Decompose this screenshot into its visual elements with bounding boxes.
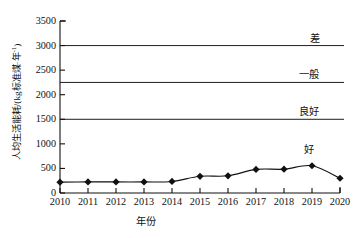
y-tick-marks — [60, 21, 65, 193]
x-tick-labels: 2010201120122013201420152016201720182019… — [0, 196, 364, 212]
y-tick-label: 2000 — [16, 90, 56, 100]
y-tick-label: 1000 — [16, 139, 56, 149]
x-tick-marks — [60, 188, 340, 193]
data-point-marker — [112, 178, 119, 185]
x-axis-label-text: 年份 — [136, 216, 156, 227]
y-tick-label: 3500 — [16, 16, 56, 26]
data-point-marker — [224, 172, 231, 179]
data-point-marker — [336, 175, 343, 182]
data-point-marker — [252, 166, 259, 173]
threshold-annotation-label: 差 — [310, 33, 320, 44]
data-point-marker — [168, 178, 175, 185]
data-point-marker — [280, 166, 287, 173]
threshold-annotation-label: 一般 — [299, 69, 319, 80]
threshold-annotation-label: 良好 — [299, 105, 319, 116]
y-tick-label: 3000 — [16, 41, 56, 51]
x-tick-label: 2020 — [320, 196, 360, 207]
data-point-marker — [196, 173, 203, 180]
data-point-marker — [308, 162, 315, 169]
data-point-marker — [56, 179, 63, 186]
chart-figure: 人均生活能耗/(kg标准煤·年-1) 050010001500200025003… — [0, 0, 364, 238]
threshold-annotation-label: 好 — [304, 143, 314, 154]
y-tick-label: 1500 — [16, 114, 56, 124]
y-tick-label: 2500 — [16, 65, 56, 75]
x-axis-label: 年份 — [0, 213, 364, 228]
data-point-marker — [140, 178, 147, 185]
y-tick-label: 500 — [16, 163, 56, 173]
data-point-marker — [84, 178, 91, 185]
